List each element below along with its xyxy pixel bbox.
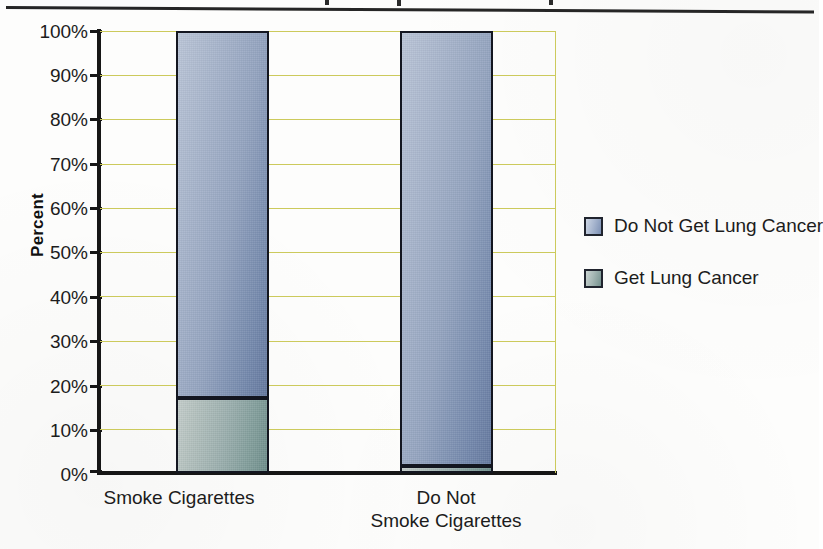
bar-segment-get-lung-cancer[interactable] [400, 466, 493, 473]
x-category-label-smoke-cigarettes: Smoke Cigarettes [95, 486, 263, 509]
plot-area [100, 31, 556, 473]
y-axis-title: Percent [28, 165, 48, 285]
bar-segment-do-not-get-lung-cancer-fill[interactable] [176, 31, 269, 398]
y-tick-label-40: 40% [12, 288, 88, 307]
green-swatch-icon [584, 269, 603, 288]
bar-texture [178, 33, 267, 396]
y-tick-label-30: 30% [12, 332, 88, 351]
bar-segment-get-lung-cancer[interactable] [176, 398, 269, 473]
bar-segment-do-not-get-lung-cancer-fill[interactable] [400, 31, 493, 466]
y-tick-label-80: 80% [12, 110, 88, 129]
chart-legend: Do Not Get Lung Cancer Get Lung Cancer [584, 215, 816, 319]
y-tick-label-0: 0% [12, 465, 88, 484]
y-tick-label-20: 20% [12, 377, 88, 396]
y-tick-label-90: 90% [12, 66, 88, 85]
legend-item-label: Do Not Get Lung Cancer [614, 215, 823, 237]
legend-item-label: Get Lung Cancer [614, 267, 759, 289]
y-tick-label-60: 60% [12, 199, 88, 218]
bar-texture [402, 468, 491, 471]
y-tick-label-70: 70% [12, 155, 88, 174]
bar-texture [402, 33, 491, 464]
x-category-label-do-not-smoke-cigarettes: Do Not Smoke Cigarettes [362, 486, 530, 532]
bar-texture [178, 400, 267, 471]
blue-swatch-icon [584, 217, 603, 236]
legend-item-do-not-get-lung-cancer[interactable]: Do Not Get Lung Cancer [584, 215, 816, 237]
bar-do-not-smoke-cigarettes[interactable] [400, 31, 493, 473]
y-tick-label-10: 10% [12, 421, 88, 440]
bar-smoke-cigarettes[interactable] [176, 31, 269, 473]
y-tick-label-100: 100% [12, 22, 88, 41]
y-tick-label-50: 50% [12, 243, 88, 262]
legend-item-get-lung-cancer[interactable]: Get Lung Cancer [584, 267, 816, 289]
